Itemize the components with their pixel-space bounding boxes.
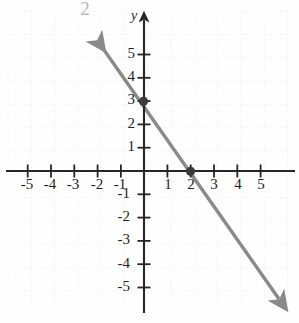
x-tick-label-5: 5 xyxy=(251,176,271,193)
x-tick-label-2: 2 xyxy=(181,176,201,193)
y-tick-label-neg3: -3 xyxy=(108,231,130,248)
y-tick-label-2: 2 xyxy=(113,115,135,132)
x-tick-label-neg2: -2 xyxy=(87,176,107,193)
x-intercept-point xyxy=(186,167,195,176)
x-tick-label-1: 1 xyxy=(158,176,178,193)
x-tick-label-neg4: -4 xyxy=(40,176,60,193)
y-axis-label: y xyxy=(131,8,137,24)
graph-figure: 2 xyxy=(0,0,299,323)
y-tick-label-neg4: -4 xyxy=(108,255,130,272)
y-tick-label-1: 1 xyxy=(113,138,135,155)
x-tick-label-neg3: -3 xyxy=(63,176,83,193)
y-intercept-point xyxy=(139,97,148,106)
x-tick-label-neg5: -5 xyxy=(17,176,37,193)
coordinate-plane xyxy=(0,0,299,323)
y-tick-label-neg5: -5 xyxy=(108,278,130,295)
x-tick-label-4: 4 xyxy=(228,176,248,193)
y-tick-label-5: 5 xyxy=(113,45,135,62)
y-tick-label-neg2: -2 xyxy=(108,208,130,225)
x-tick-label-3: 3 xyxy=(204,176,224,193)
y-tick-label-3: 3 xyxy=(113,91,135,108)
y-tick-label-neg1: -1 xyxy=(108,185,130,202)
y-tick-label-4: 4 xyxy=(113,68,135,85)
